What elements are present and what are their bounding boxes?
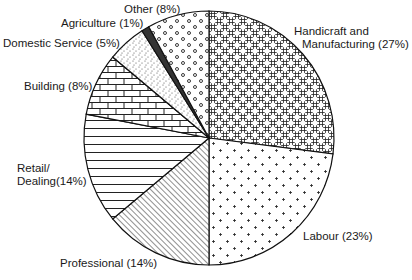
label-building: Building (8%) xyxy=(24,80,92,93)
label-retail-line2: Dealing(14%) xyxy=(17,175,87,188)
label-domestic: Domestic Service (5%) xyxy=(3,37,120,50)
label-retail: Retail/ Dealing(14%) xyxy=(17,162,87,188)
label-handicraft: Handicraft and Manufacturing (27%) xyxy=(294,25,409,51)
label-handicraft-line1: Handicraft and xyxy=(294,25,409,38)
label-handicraft-line2: Manufacturing (27%) xyxy=(294,38,409,51)
label-retail-line1: Retail/ xyxy=(17,162,87,175)
label-other: Other (8%) xyxy=(124,3,180,16)
pie-slice-labour xyxy=(209,138,333,265)
label-labour: Labour (23%) xyxy=(303,230,373,243)
label-professional: Professional (14%) xyxy=(60,257,157,270)
label-agriculture: Agriculture (1%) xyxy=(61,17,143,30)
